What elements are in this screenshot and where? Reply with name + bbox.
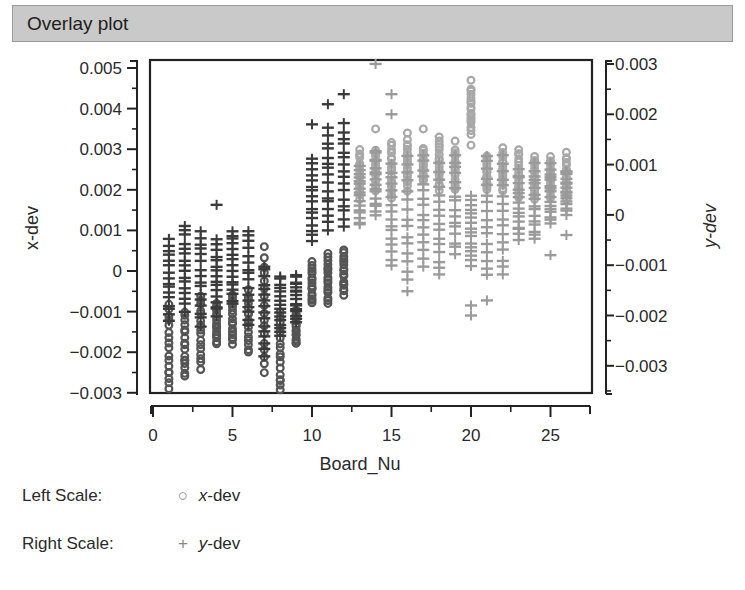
svg-text:−0.002: −0.002 [615,307,667,326]
svg-text:0.004: 0.004 [79,100,122,119]
plot-frame [150,60,592,393]
svg-text:−0.003: −0.003 [70,384,122,403]
legend-right-label: Right Scale: [22,534,172,554]
svg-text:0.002: 0.002 [615,105,658,124]
svg-text:0.003: 0.003 [615,55,658,74]
svg-text:0: 0 [615,206,624,225]
svg-text:5: 5 [228,426,237,445]
svg-text:−0.003: −0.003 [615,357,667,376]
legend-right-scale: Right Scale:+ y-dev [22,534,240,554]
circle-marker-icon: ○ [172,486,194,506]
plus-marker-icon: + [172,534,194,554]
svg-text:0.001: 0.001 [615,156,658,175]
svg-text:0.002: 0.002 [79,181,122,200]
legend-left-label: Left Scale: [22,486,172,506]
svg-text:0: 0 [148,426,157,445]
svg-text:20: 20 [462,426,481,445]
svg-text:−0.001: −0.001 [615,256,667,275]
legend-right-series: y-dev [199,534,241,553]
svg-text:0.001: 0.001 [79,221,122,240]
svg-text:−0.001: −0.001 [70,303,122,322]
svg-text:−0.002: −0.002 [70,343,122,362]
svg-text:15: 15 [382,426,401,445]
right-y-axis: 0.0030.0020.0010−0.001−0.002−0.003 [606,55,667,394]
y-axis-title-left: x-dev [22,206,42,250]
legend-left-series: x-dev [199,486,241,505]
x-axis: 0510152025 [148,406,590,445]
left-y-axis: 0.0050.0040.0030.0020.0010−0.001−0.002−0… [70,59,137,403]
svg-text:0.003: 0.003 [79,140,122,159]
svg-text:25: 25 [541,426,560,445]
y-axis-title-right: y-dev [700,203,720,250]
legend-left-scale: Left Scale:○ x-dev [22,486,240,506]
svg-text:0: 0 [113,262,122,281]
svg-text:0.005: 0.005 [79,59,122,78]
x-axis-title: Board_Nu [319,454,400,475]
svg-text:10: 10 [303,426,322,445]
